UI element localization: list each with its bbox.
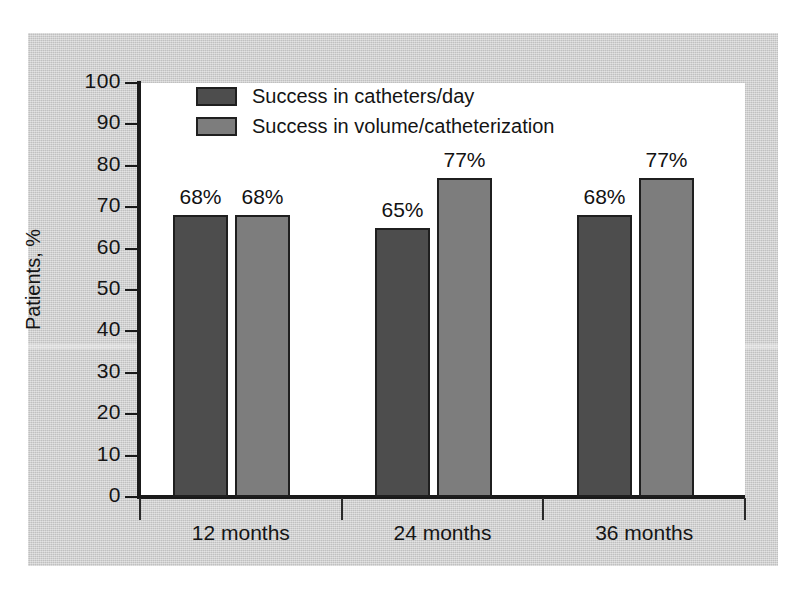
x-axis-separator (341, 498, 343, 520)
bar-value-label: 68% (565, 185, 644, 209)
x-axis-separator (139, 498, 141, 520)
y-axis-title: Patients, % (22, 200, 45, 360)
legend-color-swatch (196, 117, 237, 136)
x-axis-separator (744, 498, 746, 520)
y-axis-tick-label: 70 (63, 193, 121, 217)
y-axis-tick (125, 330, 138, 332)
chart-legend: Success in catheters/daySuccess in volum… (196, 82, 536, 142)
y-axis-tick-labels: 1009080706050403020100 (59, 0, 121, 597)
bar (437, 178, 492, 497)
y-axis-tick (125, 496, 138, 498)
y-axis-tick-label: 80 (63, 152, 121, 176)
bar (639, 178, 694, 497)
y-axis-tick (125, 206, 138, 208)
bar-value-label: 77% (627, 148, 706, 172)
x-axis-separator (542, 498, 544, 520)
y-axis-tick-label: 60 (63, 235, 121, 259)
legend-label: Success in catheters/day (252, 85, 474, 108)
x-axis-category-label: 36 months (543, 521, 745, 545)
chart-figure: Patients, % 1009080706050403020100 12 mo… (0, 0, 806, 597)
y-axis-tick-label: 100 (63, 69, 121, 93)
legend-item: Success in catheters/day (196, 82, 536, 110)
bar (375, 228, 430, 497)
x-axis-category-label: 24 months (342, 521, 544, 545)
legend-color-swatch (196, 87, 237, 106)
y-axis-tick-label: 0 (63, 483, 121, 507)
y-axis-tick (125, 455, 138, 457)
bar (577, 215, 632, 497)
y-axis-tick-label: 20 (63, 400, 121, 424)
x-axis-category-label: 12 months (140, 521, 342, 545)
y-axis-tick (125, 413, 138, 415)
bar (235, 215, 290, 497)
y-axis-tick (125, 165, 138, 167)
y-axis-tick-label: 30 (63, 359, 121, 383)
y-axis-tick (125, 372, 138, 374)
legend-item: Success in volume/catheterization (196, 112, 536, 140)
legend-label: Success in volume/catheterization (252, 115, 554, 138)
y-axis-tick-label: 90 (63, 110, 121, 134)
bar-value-label: 65% (363, 198, 442, 222)
y-axis-tick-label: 40 (63, 317, 121, 341)
y-axis-tick (125, 248, 138, 250)
bar-value-label: 77% (425, 148, 504, 172)
y-axis-tick-label: 10 (63, 442, 121, 466)
y-axis-tick-label: 50 (63, 276, 121, 300)
y-axis-tick (125, 123, 138, 125)
bar (173, 215, 228, 497)
bar-value-label: 68% (223, 185, 302, 209)
y-axis-tick (125, 289, 138, 291)
y-axis-tick (125, 82, 138, 84)
